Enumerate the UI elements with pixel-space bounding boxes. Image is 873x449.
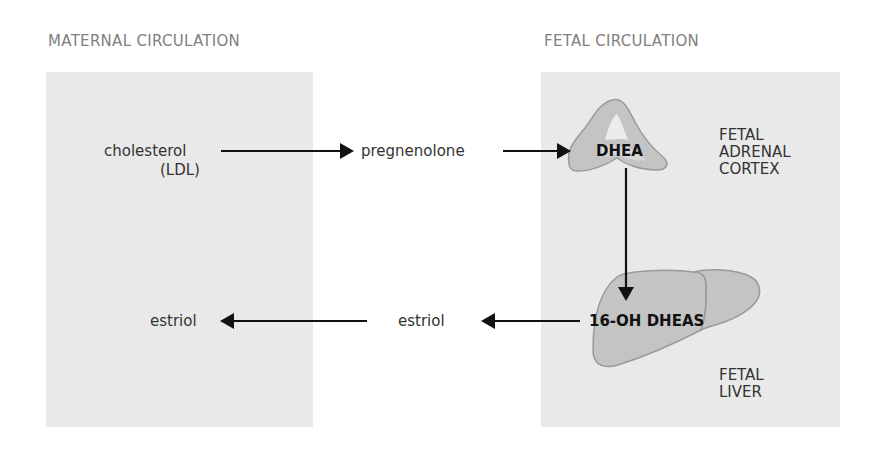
fetal-adrenal-gland-icon [568, 100, 666, 172]
fetal-liver-label: FETAL LIVER [719, 367, 764, 401]
fetal-adrenal-cortex-label: FETAL ADRENAL CORTEX [719, 127, 791, 178]
cholesterol-label: cholesterol [104, 142, 186, 160]
dhea-label: DHEA [596, 142, 643, 160]
ldl-label: (LDL) [160, 161, 200, 179]
estriol-placenta-label: estriol [398, 312, 445, 330]
16oh-dheas-label: 16-OH DHEAS [589, 312, 704, 330]
estriol-maternal-label: estriol [150, 312, 197, 330]
pregnenolone-label: pregnenolone [361, 142, 465, 160]
